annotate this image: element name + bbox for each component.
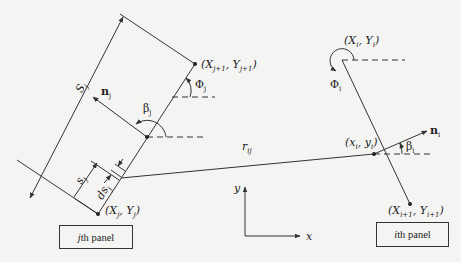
label-beta-j: βj	[143, 102, 152, 117]
label-Xi-Yi: (Xi, Yi)	[344, 34, 379, 49]
jth-panel-box: jth panel	[59, 225, 133, 249]
point-xi1-yi1	[408, 202, 412, 206]
control-point-j	[145, 135, 149, 139]
dsj-arrow-bottom	[104, 175, 111, 183]
ith-panel-line	[342, 60, 410, 204]
label-axis-y: y	[233, 182, 241, 195]
small-sj-extension-top	[91, 161, 119, 180]
beta-j-arc	[136, 120, 166, 137]
point-xj1-yj1	[193, 62, 197, 66]
label-rij: rij	[242, 140, 253, 155]
label-Sj: Sj	[73, 79, 91, 95]
small-sj-extension	[74, 198, 98, 214]
label-ni: ni	[430, 124, 441, 139]
label-nj: nj	[101, 85, 111, 100]
label-phi-j: Φj	[195, 78, 206, 93]
sj-extension-top	[120, 14, 195, 64]
label-beta-i: βi	[406, 140, 415, 155]
label-small-sj: sj	[73, 172, 90, 187]
label-dsj: dsj	[94, 182, 115, 203]
dsj-tick-2	[115, 164, 125, 171]
panel-geometry-diagram: Sj nj βj Φj (Xj+1, Yj+1) (Xj, Yj) sj dsj…	[0, 0, 461, 262]
label-Xj1-Yj1: (Xj+1, Yj+1)	[201, 58, 257, 73]
label-phi-i: Φi	[330, 78, 342, 93]
phi-j-arc	[186, 78, 191, 97]
control-point-i	[372, 152, 376, 156]
ni-normal-arrow	[374, 131, 427, 154]
label-Xi1-Yi1: (Xi+1, Yi+1)	[388, 204, 444, 219]
dsj-arrow-top	[118, 159, 123, 166]
sj-dimension-line	[30, 17, 123, 198]
ith-panel-box: ith panel	[376, 222, 449, 247]
jth-panel-text: th panel	[81, 232, 115, 243]
label-Xj-Yj: (Xj, Yj)	[105, 204, 140, 219]
ith-panel-text: th panel	[397, 229, 431, 240]
point-xj-yj	[96, 212, 100, 216]
label-xi-yi: (xi, yi)	[345, 136, 378, 151]
nj-normal-arrow	[93, 97, 147, 137]
rij-line	[121, 154, 374, 178]
beta-i-arc	[400, 143, 402, 154]
label-axis-x: x	[306, 230, 313, 243]
